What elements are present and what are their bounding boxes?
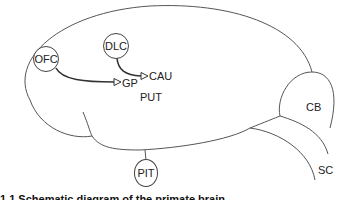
cerebrum-outline [25,6,312,100]
label-cb: CB [306,101,321,113]
node-ofc: OFC [33,46,59,72]
ofc-to-gp-arrow [56,68,114,82]
node-pit: PIT [134,159,158,187]
label-gp: GP [122,77,138,89]
figure-caption: 1.1 Schematic diagram of the primate bra… [0,193,225,200]
dlc-to-cau-arrow [117,58,141,76]
brainstem-upper [250,116,328,154]
label-sc: SC [318,164,333,176]
temporal-fold [83,112,250,150]
cerebrum-lower-left [30,100,92,137]
node-pit-label: PIT [137,167,154,179]
node-dlc: DLC [103,33,129,59]
arrowhead-cau [141,73,148,80]
node-ofc-label: OFC [34,53,57,65]
arrowhead-gp [114,79,121,86]
cerebellum-outline [279,72,334,128]
label-cau: CAU [149,70,172,82]
node-dlc-label: DLC [105,40,127,52]
spinal-cord-lower [250,128,315,180]
label-put: PUT [140,91,162,103]
brain-outline-diagram [0,0,348,200]
